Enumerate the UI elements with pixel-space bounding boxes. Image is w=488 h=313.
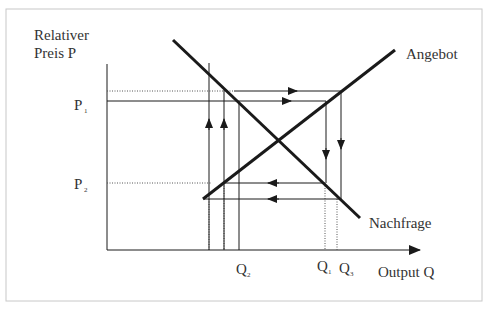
svg-text:Q: Q	[317, 258, 328, 274]
x-axis-label: Output Q	[378, 264, 434, 280]
quantity-arrows-down	[326, 91, 341, 199]
demand-curve	[173, 40, 360, 218]
svg-text:2: 2	[84, 186, 88, 194]
tick-p1: P 1	[74, 97, 88, 115]
svg-text:Q: Q	[339, 260, 350, 276]
svg-text:Q: Q	[236, 261, 247, 277]
svg-text:P: P	[74, 97, 82, 113]
tick-p2: P 2	[74, 176, 88, 194]
tick-q1: Q 1	[317, 258, 332, 276]
y-axis-label-line1: Relativer	[34, 27, 89, 43]
supply-demand-diagram: Relativer Preis P Angebot Nachfrage Outp…	[0, 0, 488, 313]
demand-label: Nachfrage	[369, 215, 432, 231]
svg-text:1: 1	[328, 268, 332, 276]
tick-q2: Q 2	[236, 261, 251, 279]
tick-q3: Q 3	[339, 260, 354, 278]
svg-text:P: P	[74, 176, 82, 192]
svg-text:1: 1	[84, 107, 88, 115]
dotted-guides	[107, 91, 337, 250]
svg-text:2: 2	[247, 271, 251, 279]
svg-text:3: 3	[350, 270, 354, 278]
y-axis-label-line2: Preis P	[34, 45, 76, 61]
supply-label: Angebot	[406, 46, 458, 62]
supply-curve	[203, 50, 395, 199]
